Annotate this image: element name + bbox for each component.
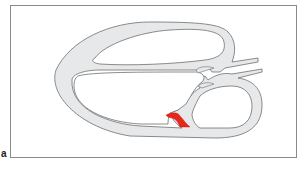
panel-label: a <box>1 148 7 159</box>
anatomical-diagram <box>0 0 302 171</box>
